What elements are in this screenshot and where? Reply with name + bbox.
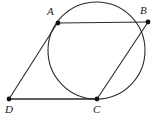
vertex-label-b: B xyxy=(140,4,147,16)
point-b xyxy=(146,20,151,25)
point-c xyxy=(95,97,100,102)
segment-c-b xyxy=(97,22,148,99)
segment-d-a xyxy=(9,22,58,99)
vertex-label-d: D xyxy=(5,103,13,115)
segment-a-b xyxy=(58,22,148,23)
point-a xyxy=(56,21,61,26)
geometry-figure: A B C D xyxy=(0,0,153,123)
point-d xyxy=(7,97,12,102)
vertex-label-c: C xyxy=(93,103,100,115)
vertex-label-a: A xyxy=(47,5,54,17)
geometry-canvas xyxy=(0,0,153,123)
main-circle xyxy=(48,2,145,99)
